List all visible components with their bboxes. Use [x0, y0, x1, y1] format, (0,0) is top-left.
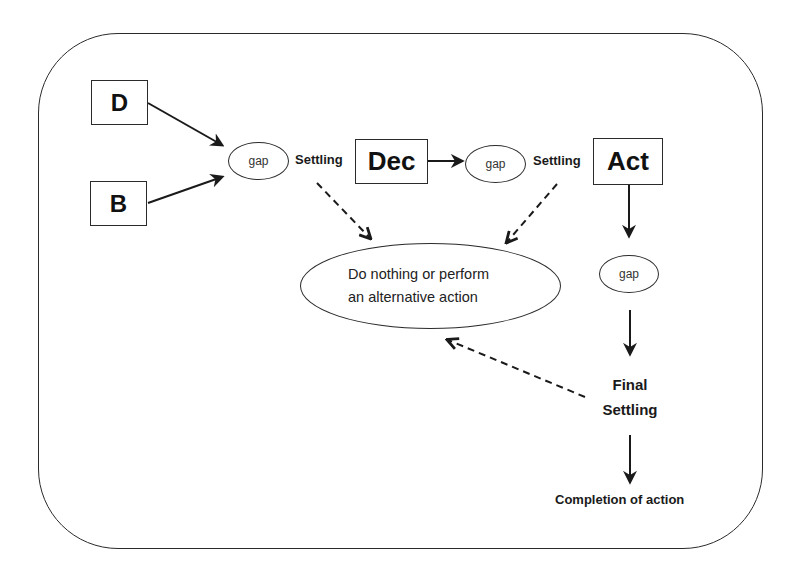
gap-3-label: gap [619, 267, 639, 281]
dashed-arrow-settling1-to-alternative [317, 183, 370, 238]
node-dec-box: Dec [355, 139, 428, 184]
gap-ellipse-3: gap [599, 255, 659, 293]
dashed-arrow-final-settling-to-alternative [448, 340, 585, 397]
node-d-box: D [91, 80, 148, 125]
decision-action-diagram: D B gap Settling Dec gap Settling Act ga… [0, 0, 796, 579]
completion-of-action-label: Completion of action [555, 492, 684, 507]
node-b-box: B [90, 181, 147, 226]
arrow-b-to-gap [148, 177, 222, 203]
gap-ellipse-2: gap [465, 145, 526, 183]
node-dec-label: Dec [368, 146, 416, 177]
gap-2-label: gap [485, 157, 505, 171]
alternative-action-line-1: Do nothing or perform [348, 263, 489, 286]
dashed-arrow-settling2-to-alternative [507, 184, 557, 242]
settling-label-2: Settling [533, 153, 581, 168]
final-settling-label: Final Settling [580, 372, 680, 422]
gap-ellipse-1: gap [228, 142, 289, 180]
final-settling-line-2: Settling [580, 397, 680, 422]
node-b-label: B [110, 190, 127, 218]
gap-1-label: gap [248, 154, 268, 168]
node-d-label: D [111, 89, 128, 117]
alternative-action-ellipse: Do nothing or perform an alternative act… [300, 243, 561, 329]
node-act-label: Act [607, 146, 649, 177]
settling-label-1: Settling [295, 152, 343, 167]
alternative-action-line-2: an alternative action [348, 286, 478, 309]
final-settling-line-1: Final [580, 372, 680, 397]
arrow-d-to-gap [148, 103, 222, 145]
node-act-box: Act [593, 138, 663, 185]
